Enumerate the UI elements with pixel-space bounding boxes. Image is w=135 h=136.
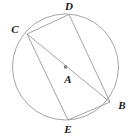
circle-geometry-diagram: C D B E A <box>0 0 135 136</box>
chord-E-B <box>68 102 110 120</box>
point-label-B: B <box>118 100 125 111</box>
chord-group <box>27 15 110 121</box>
chord-C-E <box>27 34 68 120</box>
point-label-D: D <box>65 1 73 12</box>
point-label-A: A <box>64 74 71 85</box>
point-label-C: C <box>11 24 18 35</box>
center-point-marker <box>64 66 67 69</box>
chord-C-B <box>27 34 110 102</box>
point-label-E: E <box>64 124 71 135</box>
chord-D-B <box>69 15 110 103</box>
diagram-canvas <box>0 0 135 136</box>
